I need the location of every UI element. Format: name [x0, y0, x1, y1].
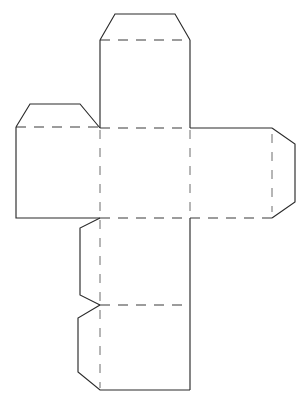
panel-lower-face: [80, 218, 190, 305]
panel-top-face: [100, 40, 190, 128]
panel-right-face: [190, 128, 272, 218]
cube-net-diagram: [0, 0, 298, 398]
panel-top-glue-tab: [100, 14, 190, 40]
panel-center-face: [100, 128, 190, 218]
panel-left-face: [16, 127, 100, 218]
panel-bottom-face: [78, 305, 190, 390]
